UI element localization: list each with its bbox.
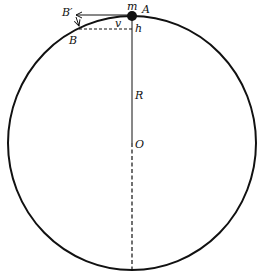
- label-center: O: [135, 138, 144, 151]
- label-point-b-prime: B′: [61, 6, 73, 19]
- label-point-b: B: [68, 34, 77, 47]
- label-radius: R: [134, 89, 143, 102]
- label-velocity: v: [115, 17, 122, 30]
- fall-arrow: [76, 17, 79, 26]
- orbit-diagram: m A B′ B v h R O: [0, 0, 260, 275]
- label-mass: m: [127, 0, 137, 13]
- label-height: h: [135, 22, 142, 35]
- label-point-a: A: [141, 3, 150, 16]
